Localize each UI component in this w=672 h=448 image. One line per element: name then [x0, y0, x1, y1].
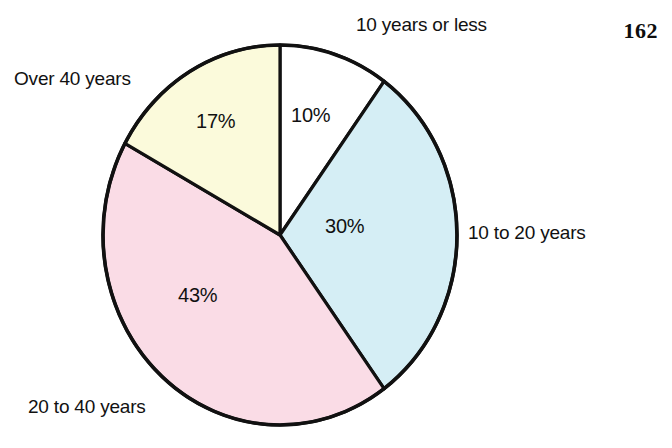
slice-value-over-40-years: 17%	[196, 110, 235, 133]
slice-value-10-years-or-less: 10%	[291, 104, 330, 127]
slice-value-20-to-40-years: 43%	[178, 284, 217, 307]
slice-label-10-to-20-years: 10 to 20 years	[468, 222, 586, 244]
slice-label-10-years-or-less: 10 years or less	[356, 14, 487, 36]
slice-label-over-40-years: Over 40 years	[14, 68, 131, 90]
slice-label-20-to-40-years: 20 to 40 years	[28, 396, 146, 418]
slice-value-10-to-20-years: 30%	[325, 215, 364, 238]
pie-chart-figure: 162 Over 40 years 10 years or less 10 to…	[0, 0, 672, 448]
